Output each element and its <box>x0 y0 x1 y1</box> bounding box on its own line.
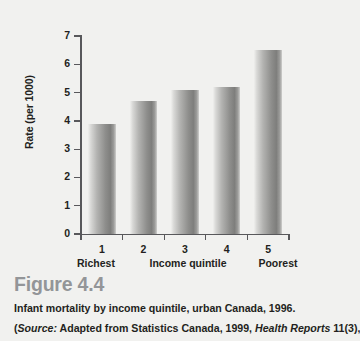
x-tick-5 <box>288 234 289 240</box>
y-tick-7 <box>74 35 81 36</box>
y-tick-6 <box>74 64 81 65</box>
y-tick-label-3: 3 <box>52 143 70 154</box>
x-tick-3 <box>205 234 206 240</box>
y-tick-2 <box>74 177 81 178</box>
x-tick-label-2: 2 <box>130 243 156 255</box>
source-body-a: Adapted from Statistics Canada, 1999, <box>57 322 255 334</box>
x-tick-1 <box>122 234 123 240</box>
y-tick-1 <box>74 205 81 206</box>
figure-caption-text: Infant mortality by income quintile, urb… <box>14 302 330 314</box>
x-axis-label-income-quintile: Income quintile <box>138 257 238 269</box>
x-axis-label-richest: Richest <box>60 257 132 269</box>
x-axis-label-poorest: Poorest <box>242 257 314 269</box>
x-tick-2 <box>164 234 165 240</box>
y-tick-label-0: 0 <box>52 228 70 239</box>
figure-source-text: (Source: Adapted from Statistics Canada,… <box>14 322 336 334</box>
source-journal-name: Health Reports <box>255 322 330 334</box>
x-tick-label-3: 3 <box>172 243 198 255</box>
bar-5 <box>254 50 281 234</box>
y-axis-title: Rate (per 1000) <box>23 52 35 172</box>
y-tick-label-2: 2 <box>52 171 70 182</box>
figure-number: Figure 4.4 <box>14 275 104 295</box>
x-tick-label-5: 5 <box>255 243 281 255</box>
bar-chart: Rate (per 1000) 01234567 12345 Richest I… <box>0 0 336 272</box>
bar-3 <box>171 90 198 234</box>
y-tick-label-5: 5 <box>52 87 70 98</box>
y-tick-label-6: 6 <box>52 58 70 69</box>
x-tick-label-4: 4 <box>214 243 240 255</box>
x-tick-4 <box>247 234 248 240</box>
x-tick-label-1: 1 <box>89 243 115 255</box>
y-tick-3 <box>74 149 81 150</box>
y-tick-label-1: 1 <box>52 200 70 211</box>
bar-1 <box>88 124 115 234</box>
y-tick-label-4: 4 <box>52 115 70 126</box>
source-body-b: 11(3), <box>330 322 360 334</box>
y-tick-5 <box>74 92 81 93</box>
plot-area <box>81 36 289 234</box>
y-tick-label-7: 7 <box>52 30 70 41</box>
x-tick-0 <box>80 234 81 240</box>
bar-4 <box>213 87 240 234</box>
source-label: Source: <box>18 322 57 334</box>
bar-2 <box>130 101 157 234</box>
y-tick-4 <box>74 120 81 121</box>
